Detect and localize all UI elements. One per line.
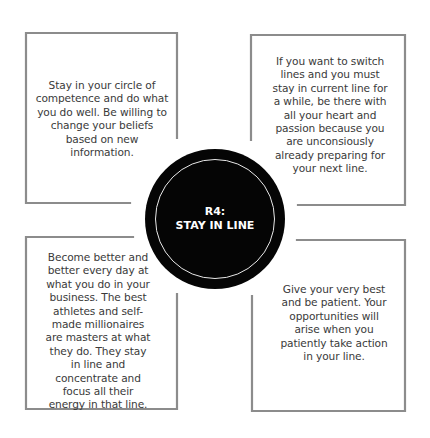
top-right-box-text: If you want to switch lines and you must… <box>272 55 388 176</box>
center-title-line1: R4: <box>145 205 285 219</box>
bottom-left-box-text: Become better and better every day at wh… <box>45 251 151 412</box>
top-left-box-text: Stay in your circle of competence and do… <box>34 79 170 159</box>
bottom-right-box-text: Give your very best and be patient. Your… <box>276 283 392 363</box>
center-title: R4: STAY IN LINE <box>145 205 285 233</box>
center-circle: R4: STAY IN LINE <box>145 149 285 289</box>
center-title-line2: STAY IN LINE <box>145 219 285 233</box>
